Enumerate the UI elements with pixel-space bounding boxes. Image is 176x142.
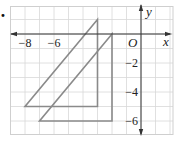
y-tick-label: −6 <box>125 114 138 128</box>
bullet-marker: • <box>0 10 6 21</box>
y-tick-label: −4 <box>125 85 138 99</box>
y-axis-arrow-up-icon <box>139 4 143 11</box>
axes <box>10 4 172 136</box>
x-tick-label: −6 <box>48 36 61 50</box>
y-axis-label: y <box>144 4 152 19</box>
origin-label: O <box>128 35 138 50</box>
coordinate-plane-figure: x y O −8−6−2−4−6 • <box>0 0 176 142</box>
x-axis-arrow-left-icon <box>10 32 17 36</box>
labels: x y O −8−6−2−4−6 <box>19 4 169 128</box>
y-tick-label: −2 <box>125 56 138 70</box>
x-axis-label: x <box>162 34 169 49</box>
x-tick-label: −8 <box>19 36 32 50</box>
